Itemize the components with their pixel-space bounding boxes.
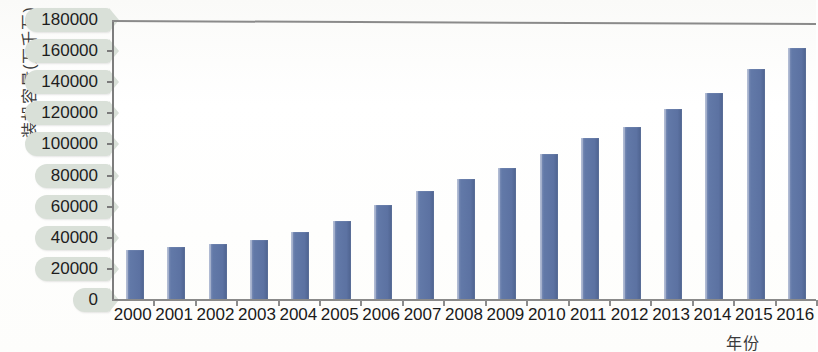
x-axis-tick-label: 2011 [568, 305, 609, 325]
y-axis-tick-label: 120000 [25, 101, 110, 125]
bar [705, 93, 723, 300]
bar [457, 179, 475, 300]
bar [623, 127, 641, 300]
y-axis-tick-mark [107, 112, 114, 114]
bar [333, 221, 351, 300]
x-axis-tick-label: 2003 [236, 305, 277, 325]
bar [581, 138, 599, 300]
x-axis-tick-label: 2004 [278, 305, 319, 325]
x-axis-tick-label: 2015 [733, 305, 774, 325]
bar [291, 232, 309, 300]
y-axis-tick-label: 60000 [35, 195, 110, 219]
x-axis-tick-label: 2005 [319, 305, 360, 325]
y-axis-tick-label: 140000 [25, 70, 110, 94]
y-axis-tick-label: 40000 [35, 226, 110, 250]
x-axis-tick-label: 2002 [195, 305, 236, 325]
bar [664, 109, 682, 300]
x-axis-tick-label: 2007 [402, 305, 443, 325]
x-axis-tick-label: 2006 [360, 305, 401, 325]
x-axis-title: 年份 [726, 330, 760, 352]
x-axis-line [112, 299, 816, 301]
y-axis-tick-mark [107, 175, 114, 177]
y-axis-tick-label: 180000 [25, 8, 110, 32]
y-axis-tick-label: 100000 [25, 132, 110, 156]
x-axis-tick-label: 2010 [526, 305, 567, 325]
bar [416, 191, 434, 300]
bar [374, 205, 392, 300]
x-axis-tick-label: 2009 [485, 305, 526, 325]
bar [747, 69, 765, 300]
bar [250, 240, 268, 301]
x-axis-tick-label: 2012 [609, 305, 650, 325]
y-axis-tick-label: 160000 [25, 39, 110, 63]
y-axis-tick-mark [107, 143, 114, 145]
x-axis-tick-label: 2008 [443, 305, 484, 325]
y-axis-tick-mark [107, 206, 114, 208]
x-axis-tick-label: 2001 [153, 305, 194, 325]
x-axis-tick-label: 2000 [112, 305, 153, 325]
x-axis-tick-label: 2013 [650, 305, 691, 325]
x-axis-tick-label: 2016 [775, 305, 816, 325]
y-axis-tick-labels: 0200004000060000800001000001200001400001… [26, 0, 110, 352]
y-axis-tick-mark [107, 81, 114, 83]
y-axis-tick-mark [107, 50, 114, 52]
bar [167, 247, 185, 300]
bar [788, 48, 806, 300]
y-axis-tick-mark [107, 268, 114, 270]
plot-area [112, 20, 816, 300]
bar [126, 250, 144, 300]
bar [209, 244, 227, 300]
y-axis-tick-label: 80000 [35, 164, 110, 188]
y-axis-tick-label: 20000 [35, 257, 110, 281]
x-axis-tick-label: 2014 [692, 305, 733, 325]
y-axis-tick-label: 0 [73, 288, 110, 312]
bar [540, 154, 558, 300]
bar [498, 168, 516, 300]
y-axis-tick-mark [107, 237, 114, 239]
